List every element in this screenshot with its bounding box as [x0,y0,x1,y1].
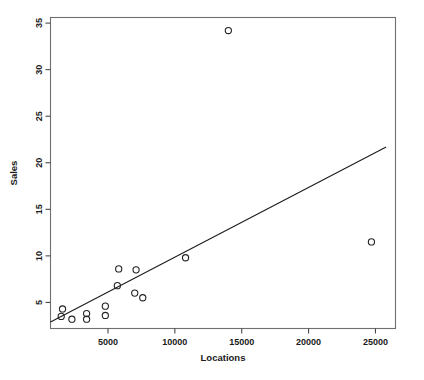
x-axis-title: Locations [201,352,246,363]
y-axis-tick-labels: 5101520253035 [34,18,44,305]
y-tick-label: 35 [34,18,44,28]
data-points [58,27,374,322]
trend-line [51,147,387,322]
x-axis-tick-labels: 500010000150002000025000 [98,337,388,347]
x-tick-label: 10000 [162,337,187,347]
x-tick-label: 15000 [229,337,254,347]
scatter-point [59,306,65,312]
y-tick-label: 15 [34,204,44,214]
scatter-point [368,239,374,245]
x-tick-label: 20000 [296,337,321,347]
x-axis-ticks [108,329,375,334]
plot-frame [51,18,396,329]
scatter-point [140,295,146,301]
y-axis-ticks [46,23,51,302]
regression-line [51,147,387,322]
y-tick-label: 5 [34,300,44,305]
scatter-point [69,316,75,322]
scatter-point [225,27,231,33]
y-axis-title: Sales [8,161,19,186]
scatter-point [132,290,138,296]
y-tick-label: 25 [34,111,44,121]
scatter-point [116,266,122,272]
y-tick-label: 20 [34,158,44,168]
x-tick-label: 25000 [363,337,388,347]
scatter-plot-figure: 5101520253035 500010000150002000025000 L… [0,0,424,380]
y-tick-label: 10 [34,251,44,261]
plot-canvas: 5101520253035 500010000150002000025000 L… [0,0,424,380]
y-tick-label: 30 [34,65,44,75]
scatter-point [182,255,188,261]
x-tick-label: 5000 [98,337,118,347]
scatter-point [102,303,108,309]
scatter-point [102,312,108,318]
scatter-point [133,267,139,273]
